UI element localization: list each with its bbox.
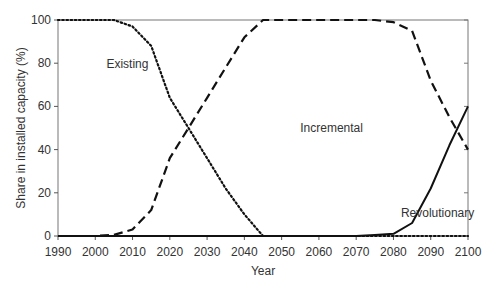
y-tick-label: 100 <box>31 13 51 27</box>
x-tick-label: 2020 <box>156 245 183 259</box>
x-tick-label: 2070 <box>343 245 370 259</box>
axes: 1990200020102020203020402050206020702080… <box>31 13 482 259</box>
x-tick-label: 2040 <box>231 245 258 259</box>
line-chart: 1990200020102020203020402050206020702080… <box>0 0 493 290</box>
y-tick-label: 0 <box>44 229 51 243</box>
series-existing <box>58 20 468 236</box>
x-tick-label: 2050 <box>268 245 295 259</box>
x-tick-label: 2080 <box>380 245 407 259</box>
x-tick-label: 2000 <box>82 245 109 259</box>
y-tick-label: 60 <box>38 99 52 113</box>
series-incremental <box>58 20 468 236</box>
y-tick-label: 40 <box>38 143 52 157</box>
y-tick-label: 20 <box>38 186 52 200</box>
label-existing: Existing <box>106 57 148 71</box>
plot-frame <box>58 20 468 236</box>
x-tick-label: 1990 <box>45 245 72 259</box>
y-axis-label: Share in installed capacity (%) <box>14 47 28 208</box>
y-tick-label: 80 <box>38 56 52 70</box>
label-revolutionary: Revolutionary <box>401 206 474 220</box>
x-axis-label: Year <box>251 264 275 278</box>
annotations: ExistingIncrementalRevolutionary <box>106 57 474 220</box>
x-tick-label: 2030 <box>194 245 221 259</box>
x-tick-label: 2010 <box>119 245 146 259</box>
x-tick-label: 2090 <box>417 245 444 259</box>
x-tick-label: 2060 <box>306 245 333 259</box>
x-tick-label: 2100 <box>455 245 482 259</box>
series-lines <box>58 20 468 236</box>
label-incremental: Incremental <box>300 121 363 135</box>
